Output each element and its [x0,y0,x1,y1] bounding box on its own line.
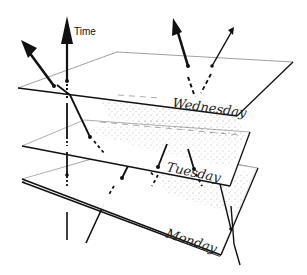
time-axis-label: Time [74,26,96,37]
diagram-layers: Monday Tuesday Wednesday [0,0,307,275]
